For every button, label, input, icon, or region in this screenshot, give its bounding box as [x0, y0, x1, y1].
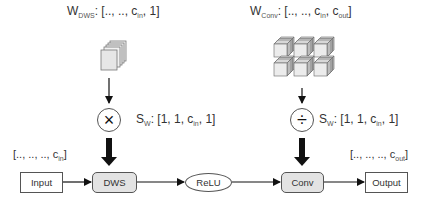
dws-weight-shape-suffix: , 1]: [143, 4, 160, 18]
output-shape-label: [.., .., .., cout]: [350, 148, 408, 162]
conv-weight-shape-prefix: : [.., .., c: [278, 4, 321, 18]
relu-node-label: ReLU: [196, 177, 220, 188]
conv-weight-subscript: Conv: [261, 12, 277, 19]
conv-filter-cubes-icon: [274, 37, 334, 76]
dws-node: DWS: [92, 172, 137, 193]
divide-scale-sub: W: [327, 120, 334, 127]
dws-weight-shape-prefix: : [.., .., c: [95, 4, 138, 18]
conv-node-label: Conv: [291, 177, 313, 188]
output-shape-prefix: [.., .., .., c: [350, 148, 395, 160]
multiply-operator-icon: ×: [97, 108, 121, 132]
dws-weight-label: WDWS: [.., .., cin, 1]: [67, 4, 160, 19]
input-shape-suffix: ]: [64, 148, 67, 160]
conv-weight-label: WConv: [.., .., cin, cout]: [250, 4, 352, 19]
conv-weight-symbol: W: [250, 4, 261, 18]
output-shape-sub: out: [395, 155, 405, 162]
divide-operator-icon: ÷: [290, 108, 314, 132]
conv-weight-shape-mid: , c: [326, 4, 339, 18]
input-shape-label: [.., .., .., cin]: [13, 148, 67, 162]
dws-weight-symbol: W: [67, 4, 78, 18]
input-node: Input: [20, 172, 63, 193]
divide-scale-label: SW: [1, 1, cin, 1]: [319, 112, 398, 127]
thick-arrow-multiply-to-dws: [101, 138, 117, 166]
multiply-scale-label: SW: [1, 1, cin, 1]: [136, 112, 215, 127]
divide-scale-prefix: : [1, 1, c: [334, 112, 377, 126]
dws-filter-stack-icon: [101, 41, 126, 70]
dws-node-label: DWS: [103, 177, 125, 188]
multiply-glyph: ×: [104, 110, 115, 131]
conv-weight-shape-sub2: out: [338, 12, 348, 19]
multiply-scale-sub: W: [144, 120, 151, 127]
divide-glyph: ÷: [297, 110, 307, 131]
multiply-scale-symbol: S: [136, 112, 144, 126]
output-shape-suffix: ]: [405, 148, 408, 160]
dws-weight-subscript: DWS: [78, 12, 94, 19]
input-node-label: Input: [31, 177, 52, 188]
divide-scale-symbol: S: [319, 112, 327, 126]
output-node: Output: [365, 172, 408, 193]
multiply-scale-suffix: , 1]: [199, 112, 216, 126]
output-node-label: Output: [372, 177, 401, 188]
conv-node: Conv: [281, 172, 324, 193]
multiply-scale-prefix: : [1, 1, c: [151, 112, 194, 126]
input-shape-prefix: [.., .., .., c: [13, 148, 58, 160]
conv-weight-shape-suffix: ]: [348, 4, 351, 18]
thick-arrow-divide-to-conv: [294, 138, 310, 166]
relu-node: ReLU: [185, 173, 232, 192]
divide-scale-suffix: , 1]: [382, 112, 399, 126]
